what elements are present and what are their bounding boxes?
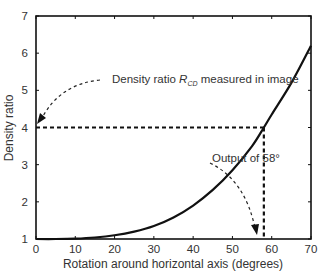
y-tick-label: 2 xyxy=(22,196,28,208)
y-tick-label: 3 xyxy=(22,159,28,171)
x-axis-label: Rotation around horizontal axis (degrees… xyxy=(63,257,283,271)
reference-lines xyxy=(36,128,264,240)
y-tick-label: 5 xyxy=(22,84,28,96)
y-tick-label: 1 xyxy=(22,233,28,245)
arrowhead-icon xyxy=(37,113,46,124)
annotation-output: Output of 58° xyxy=(212,152,280,164)
x-tick-label: 30 xyxy=(147,243,160,255)
axis-ticks xyxy=(36,16,311,239)
x-tick-label: 70 xyxy=(305,243,318,255)
x-tick-label: 0 xyxy=(33,243,39,255)
y-axis-label: Density ratio xyxy=(2,94,16,161)
plot-frame xyxy=(36,16,311,239)
y-tick-label: 4 xyxy=(22,122,29,134)
arrowhead-icon xyxy=(251,224,259,235)
x-tick-label: 10 xyxy=(69,243,82,255)
annotation-density-ratio: Density ratio RCD measured in image xyxy=(112,73,299,87)
x-tick-label: 50 xyxy=(226,243,239,255)
y-tick-label: 7 xyxy=(22,10,28,22)
y-tick-label: 6 xyxy=(22,47,28,59)
density-ratio-chart: 0102030405060701234567 Density ratio RCD… xyxy=(0,0,323,272)
x-tick-label: 20 xyxy=(108,243,121,255)
x-tick-label: 60 xyxy=(265,243,278,255)
annotation-arrow-output xyxy=(210,163,255,228)
x-tick-label: 40 xyxy=(187,243,200,255)
annotation-arrow-density xyxy=(42,80,100,118)
